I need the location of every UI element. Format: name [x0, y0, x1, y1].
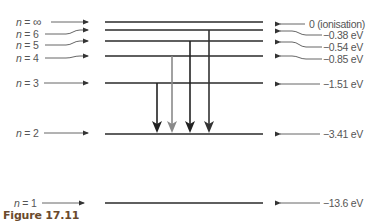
level-label-n-inf: n = ∞: [16, 16, 41, 28]
right-pointers: [280, 24, 322, 203]
energy-level-diagram: [0, 0, 375, 224]
level-label-n6: n = 6: [16, 29, 39, 40]
energy-label-n6: −0.38 eV: [323, 30, 363, 41]
energy-label-n4: −0.85 eV: [323, 54, 363, 65]
transition-5-to-2: [185, 41, 195, 133]
transition-4-to-2: [167, 56, 177, 133]
pointer-arrow-n4: [45, 56, 88, 58]
pointer-arrow-e5: [280, 42, 322, 47]
pointer-arrow-n5: [45, 41, 88, 45]
level-label-n3: n = 3: [16, 78, 39, 89]
level-label-n5: n = 5: [16, 40, 39, 51]
figure-caption: Figure 17.11: [3, 209, 79, 222]
energy-levels: [105, 22, 263, 203]
transition-6-to-2: [204, 30, 214, 133]
left-pointers: [42, 22, 88, 203]
level-label-n4: n = 4: [16, 53, 39, 64]
level-label-n2: n = 2: [16, 128, 39, 139]
transition-3-to-2: [152, 83, 162, 133]
energy-label-n2: −3.41 eV: [323, 129, 363, 140]
energy-label-ionisation: 0 (ionisation): [309, 19, 365, 30]
pointer-arrow-e6: [280, 31, 322, 35]
energy-label-n5: −0.54 eV: [323, 42, 363, 53]
pointer-arrow-e4: [280, 56, 322, 59]
energy-label-n1: −13.6 eV: [323, 198, 363, 209]
level-label-n1: n = 1: [14, 198, 37, 209]
transition-arrows: [152, 30, 214, 133]
pointer-arrow-n6: [45, 30, 88, 34]
energy-label-n3: −1.51 eV: [323, 79, 363, 90]
infinity-symbol: ∞: [33, 15, 41, 29]
